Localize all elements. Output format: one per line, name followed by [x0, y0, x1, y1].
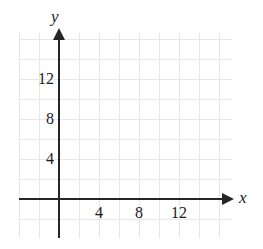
- y-axis-line: [58, 38, 60, 238]
- gridline-horizontal: [19, 99, 232, 100]
- y-axis-arrowhead-icon: [53, 28, 65, 40]
- x-axis-label: x: [239, 189, 247, 206]
- gridline-horizontal: [19, 219, 232, 220]
- gridline-horizontal: [19, 139, 232, 140]
- gridline-vertical: [79, 32, 80, 238]
- y-axis-label: y: [51, 8, 59, 25]
- y-tick-label: 12: [38, 71, 54, 87]
- gridline-vertical: [159, 32, 160, 238]
- gridline-horizontal: [19, 39, 232, 40]
- gridline-vertical: [219, 32, 220, 238]
- gridline-vertical: [199, 32, 200, 238]
- grid: [19, 32, 232, 238]
- x-tick-label: 8: [135, 205, 143, 221]
- coordinate-plane-figure: y x 48124812: [0, 0, 263, 249]
- gridline-horizontal: [19, 59, 232, 60]
- x-tick-label: 12: [171, 205, 187, 221]
- gridline-vertical: [119, 32, 120, 238]
- x-axis-arrowhead-icon: [222, 193, 234, 205]
- gridline-horizontal: [19, 179, 232, 180]
- x-axis-line: [19, 198, 226, 200]
- x-tick-label: 4: [95, 205, 103, 221]
- gridline-vertical: [39, 32, 40, 238]
- gridline-vertical: [19, 32, 20, 238]
- y-tick-label: 8: [46, 111, 54, 127]
- y-tick-label: 4: [46, 151, 54, 167]
